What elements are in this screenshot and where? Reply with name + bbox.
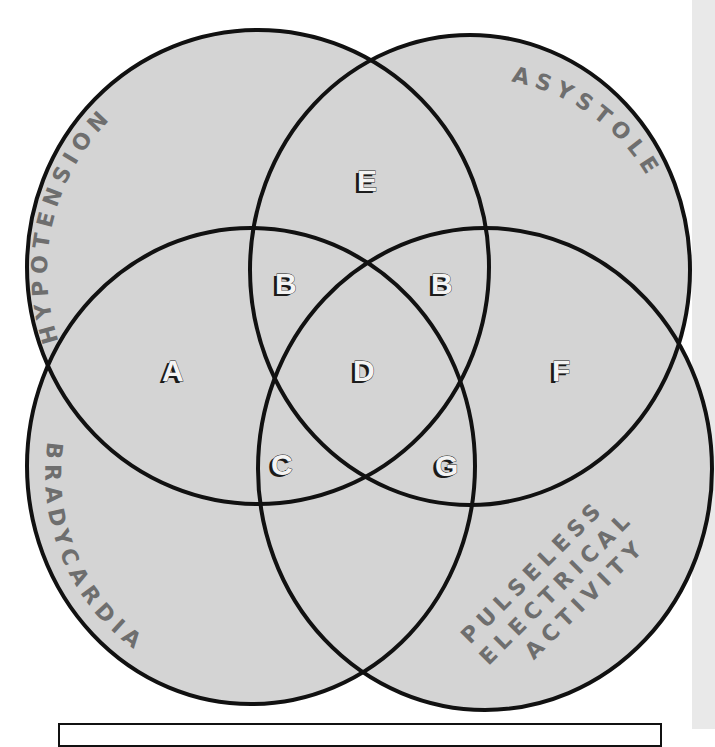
region-C: C C — [268, 448, 293, 483]
region-E: E E — [354, 164, 377, 199]
region-B-right: B B — [428, 267, 453, 302]
svg-text:B: B — [431, 267, 453, 300]
svg-text:F: F — [552, 354, 570, 387]
svg-text:G: G — [435, 449, 458, 482]
region-F: F F — [549, 354, 570, 389]
svg-text:B: B — [275, 267, 297, 300]
svg-text:A: A — [162, 354, 184, 387]
svg-text:E: E — [357, 164, 377, 197]
svg-text:D: D — [353, 354, 375, 387]
caption-box — [58, 723, 662, 747]
svg-text:C: C — [271, 448, 293, 481]
region-A: A A — [159, 354, 184, 389]
region-D: D D — [350, 354, 375, 389]
region-G: G G — [432, 449, 458, 484]
region-B-left: B B — [272, 267, 297, 302]
